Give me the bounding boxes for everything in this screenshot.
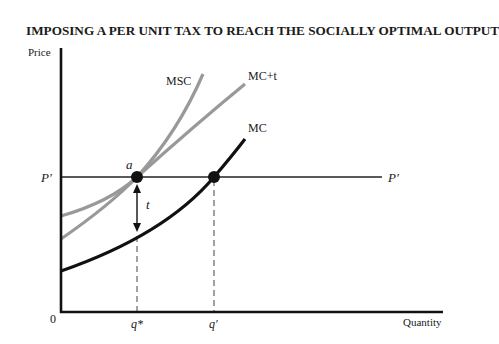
price-left-label: P′ <box>41 170 52 186</box>
point-q-prime <box>208 171 220 183</box>
mc-plus-t-curve <box>61 84 245 239</box>
msc-curve <box>61 74 203 216</box>
point-a-label: a <box>126 157 133 173</box>
tax-label: t <box>146 197 150 213</box>
mc-label: MC <box>248 121 267 136</box>
mc-plus-t-label: MC+t <box>248 69 277 84</box>
price-right-label: P′ <box>388 170 399 186</box>
point-a <box>131 171 143 183</box>
q-star-label: q* <box>131 317 143 332</box>
msc-label: MSC <box>166 74 191 89</box>
tax-arrow <box>133 184 141 232</box>
q-prime-label: q′ <box>209 317 218 332</box>
origin-label: 0 <box>50 312 56 327</box>
x-axis-label: Quantity <box>403 316 442 328</box>
y-axis-label: Price <box>28 46 51 58</box>
